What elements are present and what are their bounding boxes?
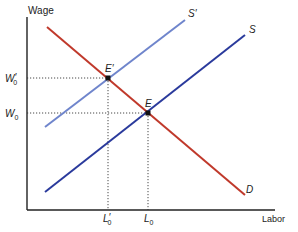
wage-old-tick-label: W0 bbox=[5, 108, 18, 121]
labor-new-tick-label: L′0 bbox=[103, 212, 112, 226]
supply-shifted-curve bbox=[45, 20, 185, 127]
eq-old-label: E bbox=[145, 98, 152, 109]
eq-new-label: E′ bbox=[105, 63, 115, 74]
supply-label: S bbox=[249, 24, 256, 35]
equilibrium-point-new bbox=[106, 76, 111, 81]
labor-old-tick-label: L0 bbox=[144, 213, 154, 226]
x-axis-label: Labor bbox=[262, 214, 285, 224]
equilibrium-point-old bbox=[146, 111, 151, 116]
wage-new-tick-label: W′0 bbox=[5, 72, 17, 86]
supply-shifted-label: S′ bbox=[188, 8, 198, 19]
demand-label: D bbox=[246, 184, 253, 195]
labor-market-chart: Wage Labor S′ S D E′ E W′0 W0 L′0 L0 bbox=[0, 0, 298, 232]
y-axis-label: Wage bbox=[28, 5, 54, 16]
